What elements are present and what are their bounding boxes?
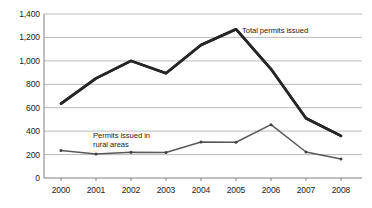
x-axis-tick-label-2005: 2005: [219, 186, 253, 195]
x-axis-tick-label-2001: 2001: [79, 186, 113, 195]
x-axis-tick-label-2004: 2004: [184, 186, 218, 195]
x-axis-tick-label-2003: 2003: [149, 186, 183, 195]
x-axis-tick-label-2008: 2008: [324, 186, 358, 195]
x-axis-tick-label-2006: 2006: [254, 186, 288, 195]
annotation-total-permits: Total permits issued: [242, 26, 308, 35]
total-series-overlay: [0, 0, 372, 208]
line-chart: 1,400 1,200 1,000 800 600 400 200 0: [0, 0, 372, 208]
x-axis-tick-label-2007: 2007: [289, 186, 323, 195]
x-axis-tick-label-2002: 2002: [114, 186, 148, 195]
x-axis-tick-label-2000: 2000: [44, 186, 78, 195]
annotation-rural-permits-line2: rural areas: [93, 140, 129, 149]
